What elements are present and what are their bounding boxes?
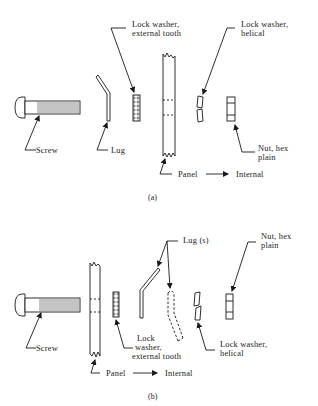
label-line: plain [258, 153, 288, 162]
label-internal-b: Internal [165, 369, 193, 378]
label-line: helical [220, 349, 267, 358]
label-lock-washer-helical-b: Lock washer, helical [220, 340, 267, 358]
label-line: plain [261, 241, 291, 250]
caption-a: (a) [148, 193, 157, 202]
label-line: Lock [136, 334, 181, 343]
label-line: external tooth [132, 352, 181, 361]
lock-washer-helical-a [197, 96, 203, 122]
label-nut-b: Nut, hex plain [261, 232, 291, 250]
label-line: Nut, hex [261, 232, 291, 241]
label-internal-a: Internal [236, 170, 264, 179]
screw-b [15, 294, 80, 316]
panel-plate-a [163, 53, 175, 157]
lock-washer-helical-b [194, 292, 201, 320]
label-line: Lock washer, [241, 20, 288, 29]
label-screw-b: Screw [36, 344, 58, 353]
label-lock-washer-external-b: Lock washer, external tooth [136, 334, 181, 361]
caption-b: (b) [148, 392, 157, 401]
label-lug-a: Lug [111, 146, 125, 155]
label-line: helical [241, 29, 288, 38]
label-line: Lock washer, [132, 20, 181, 29]
label-lugs-b: Lug (s) [183, 236, 209, 245]
label-nut-a: Nut, hex plain [258, 144, 288, 162]
label-line: Nut, hex [258, 144, 288, 153]
label-screw-a: Screw [36, 146, 58, 155]
panel-plate-b [90, 262, 100, 357]
label-line: washer, [135, 343, 181, 352]
nut-a [227, 97, 235, 121]
lock-washer-external-b [113, 292, 119, 317]
nut-b [226, 294, 233, 319]
screw-a [15, 97, 80, 118]
label-panel-a: Panel [178, 170, 198, 179]
label-lock-washer-helical-a: Lock washer, helical [241, 20, 288, 38]
lug-b-solid [140, 268, 160, 318]
label-panel-b: Panel [106, 369, 126, 378]
label-line: Lock washer, [220, 340, 267, 349]
lug-a [96, 75, 110, 121]
lock-washer-external-a [133, 95, 140, 121]
fastener-assembly-figure: Lock washer, external tooth Lock washer,… [0, 0, 318, 406]
label-line: external tooth [132, 29, 181, 38]
label-lock-washer-external-a: Lock washer, external tooth [132, 20, 181, 38]
